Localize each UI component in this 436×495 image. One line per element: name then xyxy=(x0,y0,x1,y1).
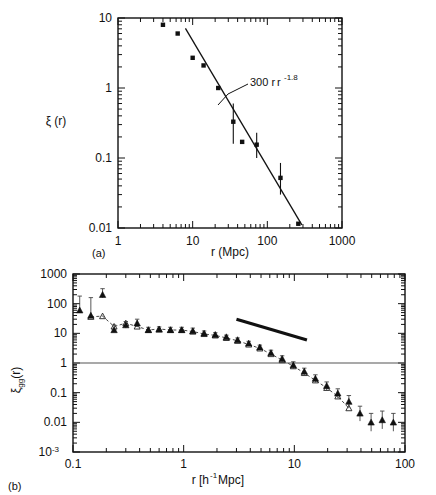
panel-b-ytick-10: 10 xyxy=(54,326,68,340)
panel-a-ytick-1: 1 xyxy=(105,81,112,95)
panel-b-filled-triangle xyxy=(190,328,196,334)
panel-b-ytick-0.1: 0.1 xyxy=(50,386,67,400)
panel-b-xlabel-exponent: -1 xyxy=(210,471,218,480)
panel-b-filled-triangle xyxy=(390,419,396,425)
panel-a-ticks xyxy=(118,18,342,228)
panel-b-filled-triangle xyxy=(234,337,240,343)
panel-b-filled-triangle xyxy=(246,340,252,346)
panel-b-xlabel-main: r [h xyxy=(192,473,209,487)
panel-a-xtick-1000: 1000 xyxy=(329,234,356,248)
panel-a-point xyxy=(231,120,235,124)
panel-b-ylabel-tail: (r) xyxy=(9,367,23,379)
figure-container: 11010010000.010.1110 r (Mpc) ξ (r) (a) 3… xyxy=(0,0,436,495)
panel-b-filled-triangle xyxy=(88,312,94,318)
panel-a-point xyxy=(240,140,244,144)
panel-b-ylabel-composite: ξgg(r) xyxy=(9,367,25,393)
panel-b-filled-triangle xyxy=(268,350,274,356)
panel-a-annotation: 300 r r -1.8 xyxy=(218,73,298,105)
panel-b-ytick-1: 1 xyxy=(60,356,67,370)
panel-b-ytick-100: 100 xyxy=(47,297,67,311)
panel-b-xtick-100: 100 xyxy=(395,457,415,471)
panel-b-xtick-0.1: 0.1 xyxy=(65,457,82,471)
panel-b-ytick-0.01: 0.01 xyxy=(44,415,68,429)
panel-a-fit-line xyxy=(185,28,301,224)
panel-a-point xyxy=(175,31,179,35)
panel-a-data-series xyxy=(161,23,301,226)
panel-b-ylabel: ξgg(r) xyxy=(9,367,25,393)
panel-a-xlabel: r (Mpc) xyxy=(211,245,249,259)
panel-b-filled-triangle xyxy=(323,383,329,389)
panel-a-point xyxy=(278,176,282,180)
panel-b-filled-triangle xyxy=(312,375,318,381)
panel-a-ylabel: ξ (r) xyxy=(46,114,67,128)
panel-b-ytick-1000: 1000 xyxy=(40,267,67,281)
panel-b-filled-triangle xyxy=(346,398,352,404)
panel-a-xtick-10: 10 xyxy=(186,234,200,248)
panel-b-filled-triangle xyxy=(134,320,140,326)
panel-a-annotation-leader xyxy=(218,84,248,105)
panel-b-ytick-1e-3-exponent: -3 xyxy=(52,445,60,454)
panel-b-filled-triangle xyxy=(335,390,341,396)
panel-a-point xyxy=(201,63,205,67)
panel-b-ytick-1e-3: 10-3 xyxy=(39,445,60,459)
panel-b-filled-triangle xyxy=(357,410,363,416)
panel-b-data-series xyxy=(77,289,397,432)
panel-a-axes-frame xyxy=(118,18,342,228)
panel-b-tick-labels: 0.111010010-30.010.11101001000 xyxy=(39,267,416,471)
panel-a-xtick-100: 100 xyxy=(257,234,277,248)
panel-a-annotation-text: 300 r xyxy=(250,76,275,88)
panel-a-annotation-r: r xyxy=(277,76,281,88)
panel-a-ytick-0.1: 0.1 xyxy=(95,151,112,165)
panel-b-xlabel-tail: Mpc] xyxy=(218,473,244,487)
panel-b-filled-triangle xyxy=(368,419,374,425)
panel-b-filled-triangle xyxy=(379,417,385,423)
panel-b-ylabel-sub: gg xyxy=(16,379,25,388)
panel-a-tag: (a) xyxy=(92,247,105,259)
panel-a-ytick-10: 10 xyxy=(99,11,113,25)
panel-b-xtick-10: 10 xyxy=(288,457,302,471)
panel-b-xlabel: r [h -1 Mpc] xyxy=(192,471,244,487)
panel-a-plot: 11010010000.010.1110 r (Mpc) ξ (r) (a) 3… xyxy=(0,0,436,262)
panel-b-xtick-1: 1 xyxy=(180,457,187,471)
panel-b-filled-triangle xyxy=(77,307,83,313)
panel-b-filled-triangle xyxy=(301,368,307,374)
panel-b-filled-triangle xyxy=(212,331,218,337)
panel-a-point xyxy=(161,23,165,27)
panel-a-point xyxy=(190,56,194,60)
panel-b-plot: 0.111010010-30.010.11101001000 r [h -1 M… xyxy=(0,262,436,495)
panel-b-tag: (b) xyxy=(8,480,21,492)
panel-a-xtick-1: 1 xyxy=(115,234,122,248)
panel-a-tick-labels: 11010010000.010.1110 xyxy=(89,11,356,248)
panel-a-ytick-0.01: 0.01 xyxy=(89,221,113,235)
panel-a-annotation-exponent: -1.8 xyxy=(284,73,298,82)
panel-b-filled-triangle xyxy=(99,292,105,298)
panel-b-filled-triangle xyxy=(223,334,229,340)
panel-b-thick-reference-line xyxy=(236,319,306,340)
panel-b-filled-triangle xyxy=(257,344,263,350)
